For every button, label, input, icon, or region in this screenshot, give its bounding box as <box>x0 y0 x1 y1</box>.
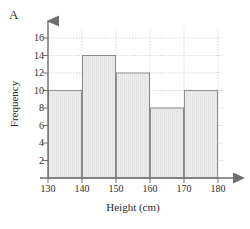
bar-140-150 <box>83 56 116 179</box>
bar-series <box>49 56 218 179</box>
y-tick-8: 8 <box>26 103 44 113</box>
bar-130-140 <box>49 91 82 179</box>
x-axis-title: Height (cm) <box>48 201 218 213</box>
x-tick-140: 140 <box>65 183 99 194</box>
x-tick-170: 170 <box>167 183 201 194</box>
x-axis-tick-labels: 130 140 150 160 170 180 <box>0 183 250 197</box>
bar-160-170 <box>151 108 184 178</box>
x-tick-160: 160 <box>133 183 167 194</box>
y-tick-14: 14 <box>26 51 44 61</box>
y-axis-title: Frequency <box>8 64 20 144</box>
x-tick-180: 180 <box>201 183 235 194</box>
x-tick-130: 130 <box>31 183 65 194</box>
y-tick-10: 10 <box>26 86 44 96</box>
y-tick-6: 6 <box>26 121 44 131</box>
histogram-figure: A <box>0 0 250 229</box>
y-tick-4: 4 <box>26 138 44 148</box>
x-tick-150: 150 <box>99 183 133 194</box>
y-tick-2: 2 <box>26 156 44 166</box>
y-tick-16: 16 <box>26 33 44 43</box>
y-tick-12: 12 <box>26 68 44 78</box>
bar-170-180 <box>185 91 218 179</box>
bar-150-160 <box>117 73 150 178</box>
